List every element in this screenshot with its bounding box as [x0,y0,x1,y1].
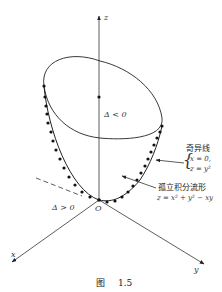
singular-line-eq1: x = 0, [190,155,211,163]
dashed-line [36,178,82,196]
figure-caption-prefix: 图 [96,278,105,288]
isolated-manifold-title: 孤立积分流形 [158,182,206,192]
y-axis [99,200,204,264]
origin-label: O [95,204,102,213]
singular-line-eq2: z = y² [189,165,211,173]
singular-line-arrow [156,160,184,163]
isolated-manifold-eq: z = x² + y² − xy [156,194,214,202]
y-axis-label: y [193,265,199,274]
curve-dots [42,84,163,203]
x-axis-label: x [11,250,16,259]
figure-caption-number: 1.5 [118,278,133,288]
region-outer-label: Δ > 0 [51,203,75,212]
diagram-canvas: z x y O Δ < 0 Δ > 0 奇异线 { x = 0, z = y² … [0,0,222,292]
isolated-manifold-arrow [122,176,156,188]
paraboloid-rim-ellipse [44,57,163,139]
z-axis-label: z [103,13,109,22]
region-inner-label: Δ < 0 [103,110,127,119]
